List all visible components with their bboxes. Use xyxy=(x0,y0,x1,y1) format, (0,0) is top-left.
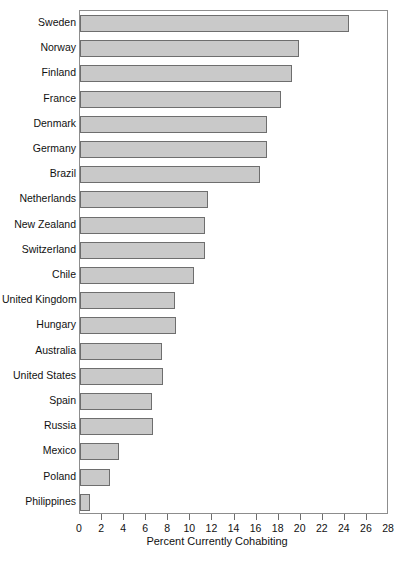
bar-row xyxy=(80,213,387,238)
x-axis-tick-label: 0 xyxy=(76,522,82,534)
bar-row xyxy=(80,61,387,86)
bar-row xyxy=(80,36,387,61)
bar-series xyxy=(80,11,387,513)
category-label: United States xyxy=(2,363,76,388)
plot-area xyxy=(79,10,388,514)
x-axis-tick-label: 4 xyxy=(120,522,126,534)
x-axis-tick-label: 2 xyxy=(98,522,104,534)
bar-row xyxy=(80,263,387,288)
x-axis-tick xyxy=(344,514,345,520)
bar-row xyxy=(80,313,387,338)
x-axis-tick xyxy=(278,514,279,520)
x-axis-title-text: Percent Currently Cohabiting xyxy=(146,535,287,547)
x-axis-tick xyxy=(234,514,235,520)
bar xyxy=(80,469,110,486)
bar-row xyxy=(80,339,387,364)
x-axis-tick xyxy=(322,514,323,520)
x-axis-tick-label: 12 xyxy=(206,522,218,534)
x-axis-tick xyxy=(101,514,102,520)
category-axis-labels: SwedenNorwayFinlandFranceDenmarkGermanyB… xyxy=(0,10,76,514)
bar xyxy=(80,343,162,360)
bar xyxy=(80,65,292,82)
bar xyxy=(80,217,205,234)
bar-chart: SwedenNorwayFinlandFranceDenmarkGermanyB… xyxy=(0,0,404,565)
bar xyxy=(80,15,349,32)
bar xyxy=(80,191,208,208)
x-axis-tick-label: 24 xyxy=(338,522,350,534)
bar xyxy=(80,418,153,435)
bar-row xyxy=(80,112,387,137)
category-label: Poland xyxy=(2,464,76,489)
bar xyxy=(80,40,299,57)
bar-row xyxy=(80,414,387,439)
x-axis-tick-label: 8 xyxy=(164,522,170,534)
bar-row xyxy=(80,11,387,36)
bar-row xyxy=(80,288,387,313)
bar-row xyxy=(80,389,387,414)
category-label: Mexico xyxy=(2,438,76,463)
category-label: Sweden xyxy=(2,10,76,35)
category-label: Hungary xyxy=(2,312,76,337)
bar xyxy=(80,368,163,385)
category-label: Russia xyxy=(2,413,76,438)
bar-row xyxy=(80,439,387,464)
x-axis-tick xyxy=(366,514,367,520)
category-label: United Kingdom xyxy=(2,287,76,312)
bar-row xyxy=(80,490,387,515)
bar xyxy=(80,393,152,410)
bar xyxy=(80,116,267,133)
x-axis-tick-label: 14 xyxy=(228,522,240,534)
category-label: Germany xyxy=(2,136,76,161)
bar-row xyxy=(80,137,387,162)
bar xyxy=(80,267,194,284)
x-axis-tick-label: 18 xyxy=(272,522,284,534)
x-axis-tick-label: 6 xyxy=(142,522,148,534)
x-axis-tick-label: 26 xyxy=(360,522,372,534)
x-axis: 0246810121416182022242628 xyxy=(79,514,388,524)
category-label: Brazil xyxy=(2,161,76,186)
x-axis-tick xyxy=(145,514,146,520)
category-label: Denmark xyxy=(2,111,76,136)
x-axis-tick xyxy=(189,514,190,520)
x-axis-tick xyxy=(123,514,124,520)
category-label: Australia xyxy=(2,338,76,363)
bar-row xyxy=(80,364,387,389)
bar xyxy=(80,317,176,334)
category-label: Finland xyxy=(2,60,76,85)
bar xyxy=(80,292,175,309)
bar-row xyxy=(80,187,387,212)
x-axis-tick-label: 28 xyxy=(382,522,394,534)
bar xyxy=(80,166,260,183)
category-label: Switzerland xyxy=(2,237,76,262)
x-axis-tick-label: 22 xyxy=(316,522,328,534)
category-label: Chile xyxy=(2,262,76,287)
bar xyxy=(80,91,281,108)
bar xyxy=(80,242,205,259)
bar-row xyxy=(80,465,387,490)
bar xyxy=(80,141,267,158)
bar-row xyxy=(80,87,387,112)
category-label: Norway xyxy=(2,35,76,60)
x-axis-title: Percent Currently Cohabiting xyxy=(0,535,404,547)
bar xyxy=(80,443,119,460)
x-axis-tick xyxy=(256,514,257,520)
x-axis-tick xyxy=(300,514,301,520)
category-label: Netherlands xyxy=(2,186,76,211)
bar-row xyxy=(80,238,387,263)
bar-row xyxy=(80,162,387,187)
x-axis-tick-label: 10 xyxy=(184,522,196,534)
x-axis-tick xyxy=(167,514,168,520)
category-label: France xyxy=(2,86,76,111)
x-axis-tick xyxy=(211,514,212,520)
bar xyxy=(80,494,90,511)
category-label: Philippines xyxy=(2,489,76,514)
category-label: Spain xyxy=(2,388,76,413)
category-label: New Zealand xyxy=(2,212,76,237)
x-axis-tick-label: 20 xyxy=(294,522,306,534)
x-axis-tick-label: 16 xyxy=(250,522,262,534)
